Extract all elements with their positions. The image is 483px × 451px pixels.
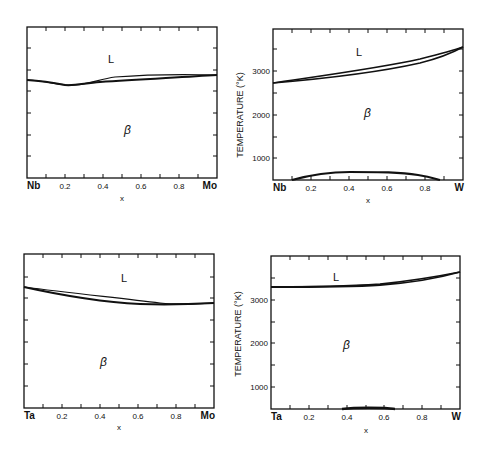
- x-tick-label: 0.4: [343, 184, 355, 193]
- region-label-beta: β: [123, 123, 131, 137]
- y-tick-label: 3000: [252, 67, 270, 76]
- panel-ta-mo: L β Ta 0.2 0.4 0.6 0.8 Mo x: [24, 254, 215, 432]
- x-tick-label: 0.8: [170, 412, 182, 421]
- y-tick-label: 3000: [250, 296, 268, 305]
- region-label-beta: β: [342, 338, 350, 352]
- x-endpoint-left: Ta: [271, 411, 282, 422]
- miscibility-gap-line: [342, 408, 395, 409]
- plot-frame: [24, 254, 214, 408]
- y-tick-label: 2000: [250, 339, 268, 348]
- tick-marks: [273, 29, 463, 180]
- y-tick-label: 2000: [252, 111, 270, 120]
- x-axis-labels: Nb 0.2 0.4 0.6 0.8 Mo x: [27, 180, 217, 203]
- x-axis-labels: Nb 0.2 0.4 0.6 0.8 W x: [273, 182, 465, 205]
- x-endpoint-right: W: [455, 182, 465, 193]
- x-endpoint-left: Ta: [24, 410, 35, 421]
- y-axis-title: TEMPERATURE (°K): [233, 291, 243, 376]
- x-endpoint-right: Mo: [203, 180, 217, 191]
- x-axis-labels: Ta 0.2 0.4 0.6 0.8 Mo x: [24, 410, 215, 432]
- tick-marks: [24, 254, 214, 408]
- x-tick-label: 0.2: [305, 184, 317, 193]
- y-axis-labels: 3000 2000 1000 TEMPERATURE (°K): [235, 67, 271, 163]
- liquidus-line: [273, 47, 463, 83]
- x-axis-labels: Ta 0.2 0.4 0.6 0.8 W x: [271, 411, 462, 435]
- region-label-liquid: L: [333, 271, 339, 283]
- x-tick-label: 0.6: [132, 412, 144, 421]
- x-axis-title: x: [364, 426, 368, 435]
- y-axis-title: TEMPERATURE (°K): [235, 72, 245, 157]
- panel-nb-w: L β 3000 2000 1000 TEMPERATURE (°K) Nb 0…: [235, 29, 465, 205]
- plot-frame: [27, 27, 217, 178]
- x-tick-label: 0.6: [381, 184, 393, 193]
- x-axis-title: x: [366, 196, 370, 205]
- x-axis-title: x: [117, 423, 121, 432]
- x-tick-label: 0.8: [416, 413, 428, 422]
- x-endpoint-right: W: [452, 411, 462, 422]
- x-tick-label: 0.4: [94, 412, 106, 421]
- region-label-liquid: L: [356, 46, 362, 58]
- x-tick-label: 0.6: [378, 413, 390, 422]
- x-tick-label: 0.2: [303, 413, 315, 422]
- panel-nb-mo: L β Nb 0.2 0.4 0.6 0.8 Mo x: [27, 27, 217, 203]
- y-tick-label: 1000: [250, 383, 268, 392]
- region-label-liquid: L: [108, 53, 114, 65]
- region-label-beta: β: [99, 355, 107, 369]
- y-tick-label: 1000: [252, 154, 270, 163]
- solidus-line: [24, 287, 214, 304]
- x-axis-title: x: [120, 194, 124, 203]
- x-tick-label: 0.6: [135, 182, 147, 191]
- phase-boundaries: [27, 75, 217, 86]
- miscibility-gap-line: [292, 172, 440, 180]
- x-tick-label: 0.2: [59, 182, 71, 191]
- phase-boundaries: [271, 272, 460, 409]
- region-label-beta: β: [363, 106, 371, 120]
- phase-boundaries: [24, 287, 214, 304]
- x-tick-label: 0.4: [341, 413, 353, 422]
- x-endpoint-left: Nb: [273, 182, 286, 193]
- region-label-liquid: L: [121, 272, 127, 284]
- tick-marks: [27, 27, 217, 178]
- x-endpoint-left: Nb: [27, 180, 40, 191]
- x-endpoint-right: Mo: [201, 410, 215, 421]
- x-tick-label: 0.8: [173, 182, 185, 191]
- solidus-line: [273, 47, 463, 83]
- x-tick-label: 0.2: [56, 412, 68, 421]
- plot-frame: [273, 29, 463, 180]
- x-tick-label: 0.8: [419, 184, 431, 193]
- phase-diagram-figure: L β Nb 0.2 0.4 0.6 0.8 Mo x: [0, 0, 483, 451]
- y-axis-labels: 3000 2000 1000 TEMPERATURE (°K): [233, 291, 269, 392]
- x-tick-label: 0.4: [97, 182, 109, 191]
- panel-ta-w: L β 3000 2000 1000 TEMPERATURE (°K) Ta 0…: [233, 256, 462, 435]
